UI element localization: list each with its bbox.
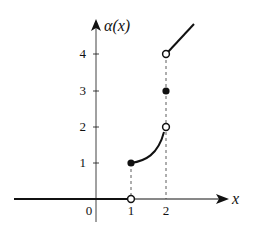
segment-line <box>168 24 194 52</box>
step-function-diagram: 1 2 3 4 0 1 2 x α(x) <box>0 0 254 237</box>
segment-curve <box>131 132 164 163</box>
y-tick-label-1: 1 <box>80 155 87 170</box>
closed-point-2-3 <box>162 87 169 94</box>
y-axis-label: α(x) <box>104 17 130 35</box>
origin-label: 0 <box>86 203 93 218</box>
x-axis-label: x <box>231 190 239 207</box>
open-point-1-0 <box>128 196 135 203</box>
y-tick-label-3: 3 <box>80 83 87 98</box>
x-tick-label-1: 1 <box>128 203 135 218</box>
x-tick-label-2: 2 <box>163 203 170 218</box>
plot-canvas: 1 2 3 4 0 1 2 x α(x) <box>0 0 254 237</box>
closed-point-1-1 <box>127 159 134 166</box>
open-point-2-4 <box>163 51 170 58</box>
y-tick-label-2: 2 <box>80 119 87 134</box>
y-tick-label-4: 4 <box>80 46 87 61</box>
open-point-2-2 <box>163 124 170 131</box>
